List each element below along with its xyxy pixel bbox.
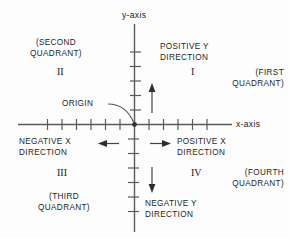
quadrant-numeral-iii: III [57,167,67,178]
origin-label: ORIGIN [62,99,93,110]
first-quadrant-label: (FIRST QUADRANT) [196,68,284,89]
y-axis-label: y-axis [122,10,146,20]
quadrant-numeral-ii: II [57,66,64,77]
positive-x-direction-label: POSITIVE X DIRECTION [177,137,226,158]
x-axis-label: x-axis [236,119,260,129]
origin-point [132,122,137,127]
fourth-quadrant-label: (FOURTH QUADRANT) [196,168,284,189]
second-quadrant-label: (SECOND QUADRANT) [8,38,104,59]
coordinate-plane-diagram: y-axis x-axis ORIGIN (SECOND QUADRANT) I… [0,0,289,238]
y-axis-ticks-positive [130,52,141,110]
third-quadrant-label: (THIRD QUADRANT) [16,192,112,213]
negative-x-direction-label: NEGATIVE X DIRECTION [19,137,71,158]
quadrant-numeral-i: I [191,66,194,77]
up-arrow-icon [149,83,156,113]
origin-leader-line [108,104,134,123]
left-arrow-icon [98,140,119,147]
right-arrow-icon [150,140,171,147]
positive-y-direction-label: POSITIVE Y DIRECTION [160,42,209,63]
down-arrow-icon [149,167,156,193]
y-axis-ticks-negative [128,139,139,212]
negative-y-direction-label: NEGATIVE Y DIRECTION [145,199,197,220]
